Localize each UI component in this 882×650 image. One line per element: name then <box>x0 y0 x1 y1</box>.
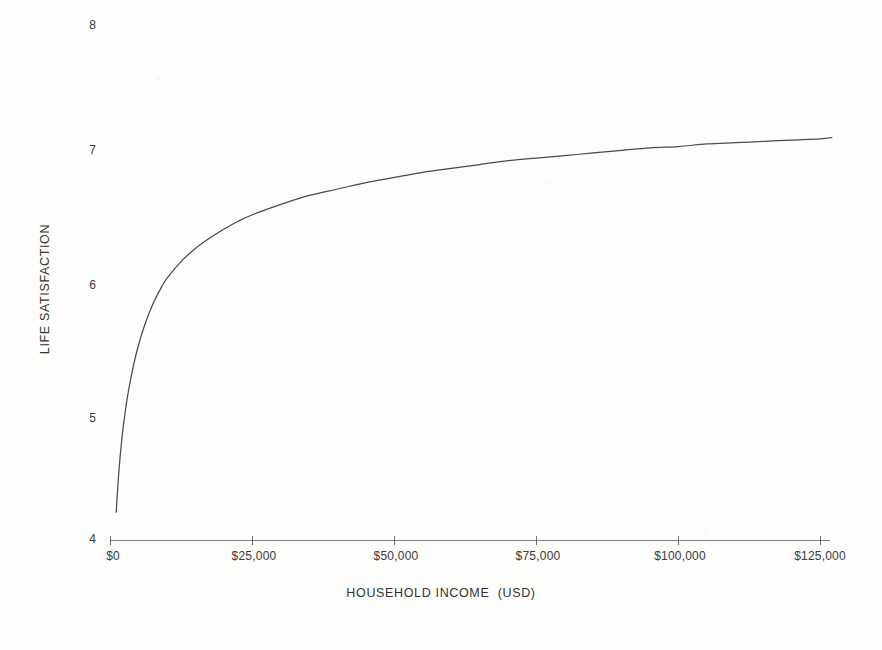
x-axis-title: HOUSEHOLD INCOME (USD) <box>0 586 882 600</box>
x-tick-label-75000: $75,000 <box>516 549 561 563</box>
y-tick-label-8: 8 <box>78 18 96 32</box>
y-axis-title: LIFE SATISFACTION <box>38 224 52 354</box>
x-tick-label-100000: $100,000 <box>654 549 706 563</box>
y-tick-label-7: 7 <box>78 143 96 157</box>
y-tick-label-5: 5 <box>78 411 96 425</box>
y-tick-label-4: 4 <box>78 532 96 546</box>
data-series-line <box>116 138 832 513</box>
x-tick-label-0: $0 <box>106 549 120 563</box>
chart-plot-area <box>0 0 882 650</box>
y-tick-label-6: 6 <box>78 278 96 292</box>
x-tick-label-125000: $125,000 <box>794 549 846 563</box>
x-tick-label-50000: $50,000 <box>374 549 419 563</box>
x-tick-label-25000: $25,000 <box>232 549 277 563</box>
chart-page: 8 7 6 5 4 $0 $25,000 $50,000 $75,000 $10… <box>0 0 882 650</box>
